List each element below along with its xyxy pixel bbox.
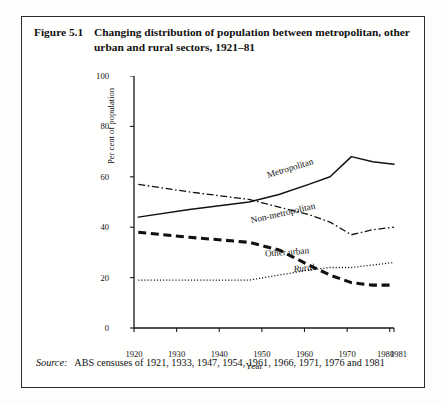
- y-tick-label-80: 80: [100, 121, 109, 131]
- y-tick-label-20: 20: [100, 273, 109, 283]
- y-tick-label-40: 40: [100, 222, 109, 232]
- y-tick-label-100: 100: [96, 71, 109, 81]
- figure-page: Figure 5.1 Changing distribution of popu…: [0, 0, 446, 404]
- source-text: ABS censuses of 1921, 1933, 1947, 1954, …: [74, 357, 384, 368]
- figure-caption: Changing distribution of population betw…: [94, 25, 418, 54]
- chart-canvas: [113, 76, 395, 345]
- chart-plot-area: Per cent of population Year 020406080100…: [113, 76, 395, 345]
- figure-number: Figure 5.1: [34, 25, 83, 40]
- source-label: Source:: [36, 357, 67, 368]
- figure-box: Figure 5.1 Changing distribution of popu…: [21, 16, 425, 388]
- y-tick-label-60: 60: [100, 172, 109, 182]
- figure-title: Figure 5.1 Changing distribution of popu…: [34, 25, 418, 54]
- series-label-rural: Rural: [294, 261, 316, 273]
- source-note: Source:ABS censuses of 1921, 1933, 1947,…: [36, 357, 416, 368]
- running-head: [250, 0, 440, 10]
- series-line-metropolitan: [138, 157, 394, 217]
- series-line-other-urban: [138, 262, 394, 280]
- y-tick-label-0: 0: [105, 323, 109, 333]
- series-line-non-metropolitan: [138, 184, 394, 234]
- chart-axes: [134, 76, 394, 328]
